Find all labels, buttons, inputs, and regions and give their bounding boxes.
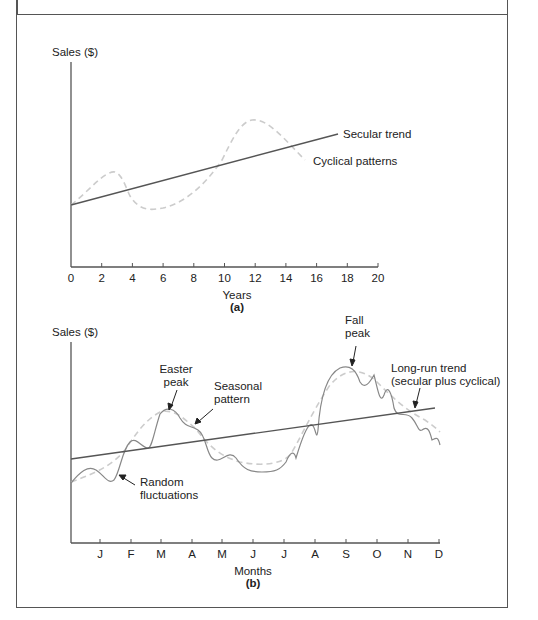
x-tick-label: 18: [341, 272, 354, 284]
easter-peak-label-line1: Easter: [159, 363, 192, 376]
chart-a-cyclical-patterns-label: Cyclical patterns: [313, 155, 397, 168]
x-tick-label: O: [373, 548, 382, 560]
easter-peak-label-line2: peak: [159, 376, 192, 389]
random-fluctuations-label-line2: fluctuations: [140, 489, 198, 502]
x-tick-label: D: [435, 548, 443, 560]
chart-a-secular-trend-label: Secular trend: [343, 128, 411, 141]
chart-b: [71, 342, 440, 543]
fall-peak-label: Fall peak: [345, 314, 370, 340]
x-tick-label: F: [127, 548, 134, 560]
random-fluctuations-label: Random fluctuations: [140, 476, 198, 502]
x-tick-label: 4: [129, 272, 135, 284]
long-run-trend-label-line1: Long-run trend: [391, 362, 500, 375]
fall-peak-label-line1: Fall: [345, 314, 370, 327]
seasonal-pattern-arrow: [198, 409, 213, 422]
x-tick-label: A: [188, 548, 196, 560]
chart-a-y-axis-label: Sales ($): [52, 46, 98, 59]
x-tick-label: 0: [68, 272, 74, 284]
x-tick-label: 12: [249, 272, 262, 284]
x-tick-label: S: [342, 548, 350, 560]
x-tick-label: J: [250, 548, 256, 560]
x-tick-label: 10: [218, 272, 231, 284]
x-tick-label: 6: [160, 272, 166, 284]
charts-canvas: [0, 0, 538, 620]
fall-peak-label-line2: peak: [345, 327, 370, 340]
x-tick-label: M: [217, 548, 227, 560]
x-tick-label: A: [311, 548, 319, 560]
seasonal-pattern-label: Seasonal pattern: [214, 380, 262, 406]
chart-a-caption: (a): [230, 301, 244, 314]
x-tick-label: 20: [372, 272, 385, 284]
easter-peak-label: Easter peak: [159, 363, 192, 389]
chart-b-caption: (b): [246, 577, 261, 590]
random-fluctuations-label-line1: Random: [140, 476, 198, 489]
x-tick-label: M: [156, 548, 166, 560]
x-tick-label: 2: [98, 272, 104, 284]
seasonal-pattern-label-line1: Seasonal: [214, 380, 262, 393]
x-tick-label: N: [404, 548, 412, 560]
chart-b-y-axis-label: Sales ($): [52, 326, 98, 339]
long-run-trend-label-line2: (secular plus cyclical): [391, 375, 500, 388]
x-tick-label: 14: [279, 272, 292, 284]
x-tick-label: 8: [191, 272, 197, 284]
chart-b-long-run-trend-line: [71, 408, 435, 459]
x-tick-label: 16: [310, 272, 323, 284]
seasonal-pattern-label-line2: pattern: [214, 393, 262, 406]
x-tick-label: J: [97, 548, 103, 560]
chart-a-secular-trend-line: [71, 134, 338, 205]
long-run-trend-label: Long-run trend (secular plus cyclical): [391, 362, 500, 388]
x-tick-label: J: [281, 548, 287, 560]
